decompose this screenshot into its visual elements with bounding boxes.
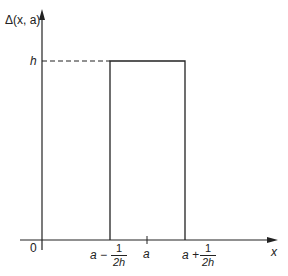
left-edge-prefix: a − [90,249,107,261]
x-axis-label: x [271,246,277,258]
origin-label: 0 [30,242,37,254]
pulse-rectangle [110,61,185,240]
right-edge-prefix: a + [182,249,199,261]
fraction-numerator: 1 [204,243,212,254]
center-label: a [143,248,150,260]
fraction-denominator: 2h [202,257,214,268]
y-axis-label: Δ(x, a) [5,14,40,26]
pulse-diagram [0,0,288,276]
fraction-denominator: 2h [113,257,125,268]
fraction-numerator: 1 [115,243,123,254]
height-label: h [30,55,37,67]
x-axis-arrow-icon [267,237,278,243]
right-edge-fraction: 1 2h [200,243,216,268]
left-edge-fraction: 1 2h [111,243,127,268]
